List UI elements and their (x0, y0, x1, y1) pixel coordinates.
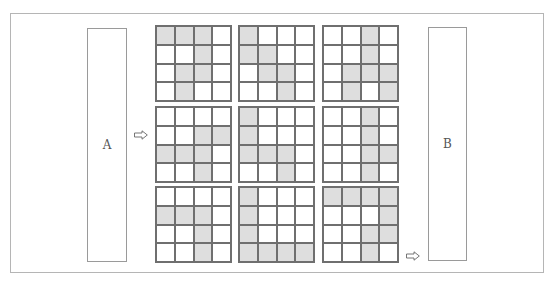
empty-cell (323, 225, 342, 244)
empty-cell (323, 82, 342, 101)
empty-cell (277, 206, 296, 225)
shaded-cell (194, 206, 213, 225)
shaded-cell (156, 206, 175, 225)
shaded-cell (239, 26, 258, 45)
empty-cell (342, 145, 361, 164)
shaded-cell (239, 126, 258, 145)
empty-cell (156, 243, 175, 262)
pattern-grid-6 (322, 106, 399, 183)
empty-cell (342, 163, 361, 182)
empty-cell (258, 26, 277, 45)
empty-cell (379, 126, 398, 145)
shaded-cell (175, 206, 194, 225)
shaded-cell (361, 45, 380, 64)
shaded-cell (361, 64, 380, 83)
empty-cell (277, 107, 296, 126)
pattern-grid-3 (322, 25, 399, 102)
empty-cell (258, 225, 277, 244)
shaded-cell (258, 64, 277, 83)
empty-cell (258, 107, 277, 126)
empty-cell (277, 126, 296, 145)
pattern-grid-9 (322, 186, 399, 263)
shaded-cell (277, 145, 296, 164)
shaded-cell (342, 82, 361, 101)
empty-cell (156, 82, 175, 101)
empty-cell (342, 225, 361, 244)
shaded-cell (194, 64, 213, 83)
shaded-cell (175, 82, 194, 101)
shaded-cell (239, 45, 258, 64)
empty-cell (258, 206, 277, 225)
empty-cell (175, 225, 194, 244)
empty-cell (156, 126, 175, 145)
pattern-grid-8 (238, 186, 315, 263)
shaded-cell (258, 45, 277, 64)
empty-cell (323, 107, 342, 126)
shaded-cell (323, 187, 342, 206)
empty-cell (277, 45, 296, 64)
shaded-cell (295, 243, 314, 262)
shaded-cell (239, 243, 258, 262)
shaded-cell (342, 64, 361, 83)
empty-cell (175, 187, 194, 206)
pattern-grid-1 (155, 25, 232, 102)
shaded-cell (194, 225, 213, 244)
empty-cell (212, 206, 231, 225)
shaded-cell (194, 26, 213, 45)
empty-cell (323, 243, 342, 262)
shaded-cell (361, 225, 380, 244)
shaded-cell (175, 26, 194, 45)
empty-cell (175, 107, 194, 126)
empty-cell (342, 107, 361, 126)
empty-cell (239, 82, 258, 101)
arrow-right-icon (406, 251, 420, 261)
output-box-b: B (428, 27, 467, 261)
shaded-cell (239, 225, 258, 244)
empty-cell (323, 26, 342, 45)
empty-cell (295, 206, 314, 225)
empty-cell (323, 206, 342, 225)
empty-cell (295, 163, 314, 182)
shaded-cell (194, 45, 213, 64)
empty-cell (295, 145, 314, 164)
shaded-cell (156, 145, 175, 164)
shaded-cell (361, 145, 380, 164)
empty-cell (258, 126, 277, 145)
empty-cell (212, 145, 231, 164)
shaded-cell (379, 82, 398, 101)
shaded-cell (361, 163, 380, 182)
empty-cell (323, 163, 342, 182)
empty-cell (175, 163, 194, 182)
empty-cell (194, 82, 213, 101)
shaded-cell (175, 64, 194, 83)
shaded-cell (258, 243, 277, 262)
pattern-grid-5 (238, 106, 315, 183)
empty-cell (212, 225, 231, 244)
pattern-grid-2 (238, 25, 315, 102)
empty-cell (379, 26, 398, 45)
empty-cell (212, 243, 231, 262)
shaded-cell (361, 243, 380, 262)
shaded-cell (156, 26, 175, 45)
empty-cell (361, 82, 380, 101)
empty-cell (156, 163, 175, 182)
empty-cell (295, 107, 314, 126)
empty-cell (342, 26, 361, 45)
empty-cell (175, 243, 194, 262)
shaded-cell (361, 126, 380, 145)
input-label: A (103, 138, 112, 152)
shaded-cell (194, 243, 213, 262)
empty-cell (258, 187, 277, 206)
empty-cell (277, 225, 296, 244)
pattern-grid-7 (155, 186, 232, 263)
empty-cell (342, 243, 361, 262)
shaded-cell (277, 64, 296, 83)
shaded-cell (361, 107, 380, 126)
empty-cell (194, 187, 213, 206)
empty-cell (212, 82, 231, 101)
empty-cell (258, 82, 277, 101)
shaded-cell (194, 145, 213, 164)
shaded-cell (379, 145, 398, 164)
shaded-cell (379, 187, 398, 206)
empty-cell (194, 107, 213, 126)
